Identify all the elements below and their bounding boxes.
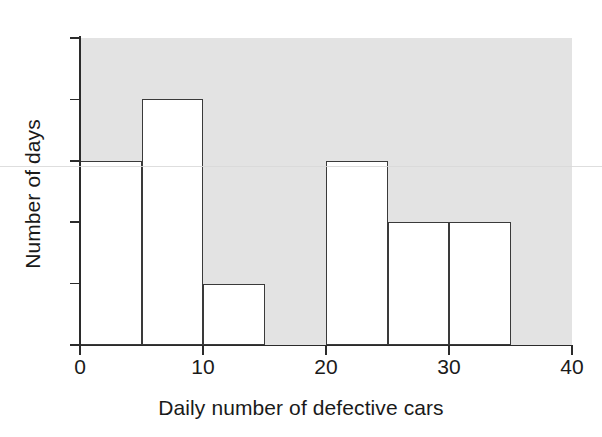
x-axis-tick xyxy=(202,345,204,355)
x-axis-tick-label: 20 xyxy=(296,356,356,377)
x-axis-tick xyxy=(79,345,81,355)
histogram-bar xyxy=(142,99,204,345)
y-axis-tick xyxy=(70,344,79,346)
plot-area xyxy=(80,38,572,345)
histogram-bar xyxy=(449,222,511,345)
histogram-bar xyxy=(80,161,142,345)
y-axis-tick xyxy=(70,283,79,285)
y-axis-tick xyxy=(70,221,79,223)
x-axis-tick xyxy=(448,345,450,355)
scan-artifact-line xyxy=(0,166,602,167)
y-axis-tick xyxy=(70,37,79,39)
y-axis-tick xyxy=(70,160,79,162)
y-axis-tick xyxy=(70,99,79,101)
histogram-figure: 012345 010203040 Daily number of defecti… xyxy=(0,0,602,437)
x-axis-tick-label: 0 xyxy=(50,356,110,377)
x-axis-title: Daily number of defective cars xyxy=(0,396,602,420)
x-axis-tick-label: 40 xyxy=(542,356,602,377)
x-axis-tick xyxy=(325,345,327,355)
x-axis-tick xyxy=(571,345,573,355)
histogram-bar xyxy=(203,284,265,345)
histogram-bar xyxy=(388,222,450,345)
x-axis-tick-label: 30 xyxy=(419,356,479,377)
y-axis-line xyxy=(79,36,81,347)
histogram-bar xyxy=(326,161,388,345)
x-axis-tick-label: 10 xyxy=(173,356,233,377)
y-axis-title: Number of days xyxy=(21,64,45,324)
